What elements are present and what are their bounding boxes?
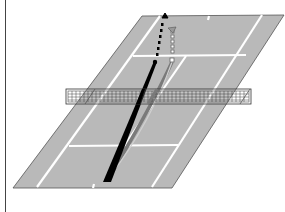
tennis-court-diagram: [0, 0, 285, 212]
